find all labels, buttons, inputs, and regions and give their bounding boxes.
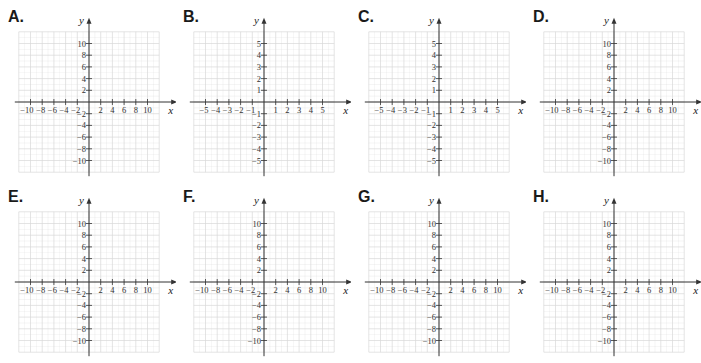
svg-text:−10: −10: [20, 105, 33, 115]
svg-text:−8: −8: [36, 105, 45, 115]
svg-text:−2: −2: [602, 289, 611, 299]
svg-text:2: 2: [257, 74, 261, 84]
y-axis-arrow-icon: [612, 198, 617, 204]
svg-text:10: 10: [143, 105, 152, 115]
graph-panel-b: B. xy−5−4−3−2−11234554321−1−2−3−4−5: [177, 0, 351, 180]
axes: [365, 18, 526, 176]
coordinate-grid: xy−10−8−6−4−2246810108642−2−4−6−8−10: [527, 180, 701, 360]
svg-text:−3: −3: [398, 105, 407, 115]
svg-text:−1: −1: [427, 109, 436, 119]
svg-text:−4: −4: [410, 285, 420, 295]
graph-panel-e: E. xy−10−8−6−4−2246810108642−2−4−6−8−10: [2, 180, 176, 360]
svg-text:−6: −6: [223, 285, 232, 295]
axes: [15, 198, 176, 356]
svg-text:2: 2: [607, 265, 611, 275]
axes: [365, 198, 526, 356]
axes: [190, 198, 351, 356]
svg-text:−4: −4: [585, 105, 595, 115]
svg-text:−8: −8: [386, 285, 395, 295]
svg-text:−10: −10: [423, 336, 436, 346]
svg-text:2: 2: [624, 105, 628, 115]
svg-text:−8: −8: [252, 324, 261, 334]
x-axis-label: x: [167, 284, 173, 296]
svg-text:5: 5: [257, 39, 261, 49]
svg-text:−3: −3: [427, 132, 436, 142]
svg-text:−8: −8: [36, 285, 45, 295]
svg-text:−4: −4: [235, 285, 245, 295]
graph-panel-g: G. xy−10−8−6−4−2246810108642−2−4−6−8−10: [352, 180, 526, 360]
svg-text:−4: −4: [77, 300, 87, 310]
svg-text:2: 2: [99, 285, 103, 295]
svg-text:−10: −10: [545, 105, 558, 115]
svg-text:4: 4: [110, 285, 115, 295]
y-axis-label: y: [253, 194, 259, 206]
y-axis-arrow-icon: [87, 198, 92, 204]
svg-text:2: 2: [274, 285, 278, 295]
svg-text:5: 5: [495, 105, 499, 115]
svg-text:−6: −6: [427, 312, 436, 322]
svg-text:4: 4: [110, 105, 115, 115]
svg-text:−6: −6: [602, 132, 611, 142]
svg-text:10: 10: [253, 219, 262, 229]
axes: [15, 18, 176, 176]
svg-text:−10: −10: [248, 336, 261, 346]
graph-panel-d: D. xy−10−8−6−4−2246810108642−2−4−6−8−10: [527, 0, 701, 180]
svg-text:−8: −8: [211, 285, 220, 295]
svg-text:−2: −2: [602, 109, 611, 119]
axes: [540, 18, 701, 176]
svg-text:10: 10: [668, 105, 677, 115]
svg-text:6: 6: [297, 285, 301, 295]
svg-text:−4: −4: [77, 120, 87, 130]
coordinate-grid: xy−10−8−6−4−2246810108642−2−4−6−8−10: [352, 180, 526, 360]
svg-text:−6: −6: [252, 312, 261, 322]
svg-text:−5: −5: [199, 105, 208, 115]
svg-text:−8: −8: [561, 285, 570, 295]
y-axis-label: y: [603, 194, 609, 206]
svg-text:−2: −2: [77, 289, 86, 299]
svg-text:2: 2: [449, 285, 453, 295]
svg-text:−6: −6: [48, 285, 57, 295]
y-axis-arrow-icon: [437, 198, 442, 204]
svg-text:−1: −1: [252, 109, 261, 119]
y-axis-arrow-icon: [612, 18, 617, 24]
svg-text:10: 10: [668, 285, 677, 295]
svg-text:2: 2: [257, 265, 261, 275]
svg-text:−4: −4: [60, 105, 70, 115]
svg-text:10: 10: [603, 39, 612, 49]
svg-text:−10: −10: [73, 336, 86, 346]
svg-text:2: 2: [82, 85, 86, 95]
svg-text:−10: −10: [73, 156, 86, 166]
svg-text:1: 1: [274, 105, 278, 115]
y-axis-label: y: [78, 194, 84, 206]
svg-text:2: 2: [99, 105, 103, 115]
y-axis-label: y: [253, 14, 259, 26]
x-axis-label: x: [342, 284, 348, 296]
svg-text:6: 6: [257, 242, 261, 252]
coordinate-grid: xy−10−8−6−4−2246810108642−2−4−6−8−10: [2, 0, 176, 180]
svg-text:−10: −10: [598, 156, 611, 166]
svg-text:3: 3: [432, 62, 436, 72]
svg-text:1: 1: [449, 105, 453, 115]
svg-text:−5: −5: [252, 156, 261, 166]
svg-text:2: 2: [607, 85, 611, 95]
svg-text:−6: −6: [573, 285, 582, 295]
svg-text:6: 6: [472, 285, 476, 295]
svg-text:8: 8: [257, 230, 261, 240]
svg-text:2: 2: [460, 105, 464, 115]
svg-text:−6: −6: [77, 312, 86, 322]
svg-text:2: 2: [432, 74, 436, 84]
svg-text:8: 8: [82, 50, 86, 60]
svg-text:8: 8: [82, 230, 86, 240]
svg-text:−4: −4: [60, 285, 70, 295]
svg-text:−10: −10: [545, 285, 558, 295]
svg-text:10: 10: [78, 219, 87, 229]
svg-text:−5: −5: [427, 156, 436, 166]
svg-text:2: 2: [285, 105, 289, 115]
svg-text:−4: −4: [427, 300, 437, 310]
svg-text:−6: −6: [48, 105, 57, 115]
svg-text:10: 10: [318, 285, 327, 295]
svg-text:4: 4: [635, 105, 640, 115]
svg-text:6: 6: [122, 285, 126, 295]
coordinate-grid: xy−10−8−6−4−2246810108642−2−4−6−8−10: [2, 180, 176, 360]
svg-text:−8: −8: [602, 144, 611, 154]
